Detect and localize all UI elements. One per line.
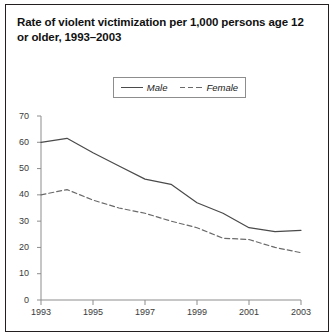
x-tick-label: 1995 — [73, 308, 113, 317]
y-tick-label: 0 — [7, 296, 29, 305]
y-tick-label: 10 — [7, 269, 29, 278]
y-tick-label: 70 — [7, 112, 29, 121]
axis-lines — [41, 116, 301, 300]
plot-area: 010203040506070 199319951997199920012003 — [0, 0, 333, 335]
series-line-male — [41, 138, 301, 231]
data-series-lines — [41, 138, 301, 252]
x-axis-ticks — [41, 300, 301, 305]
x-tick-label: 1993 — [21, 308, 61, 317]
y-tick-label: 40 — [7, 190, 29, 199]
chart-canvas — [0, 0, 333, 335]
x-tick-label: 1999 — [177, 308, 217, 317]
y-axis-ticks — [37, 116, 41, 300]
chart-figure: Rate of violent victimization per 1,000 … — [0, 0, 333, 335]
y-tick-label: 20 — [7, 243, 29, 252]
x-tick-label: 2003 — [281, 308, 321, 317]
y-tick-label: 50 — [7, 164, 29, 173]
y-tick-label: 30 — [7, 217, 29, 226]
y-tick-label: 60 — [7, 138, 29, 147]
x-tick-label: 2001 — [229, 308, 269, 317]
x-tick-label: 1997 — [125, 308, 165, 317]
series-line-female — [41, 190, 301, 253]
